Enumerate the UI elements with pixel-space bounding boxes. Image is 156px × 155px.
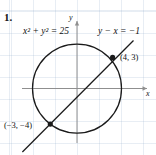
point-label-a: (4, 3) (120, 53, 138, 62)
line-curve (22, 41, 133, 153)
problem-number: 1. (4, 12, 12, 23)
line-equation-label: y − x = −1 (98, 27, 140, 37)
intersection-point-a (110, 55, 115, 60)
axis-label-x: x (146, 90, 150, 98)
y-axis-arrowhead (75, 21, 79, 26)
intersection-point-b (48, 122, 53, 127)
point-label-b: (−3, −4) (4, 121, 32, 130)
math-figure: 1. x² + y² = 25 y − x = −1 y x (4, 3) (−… (0, 0, 156, 155)
axis-label-y: y (69, 14, 73, 22)
coordinate-plot (0, 0, 156, 155)
circle-equation-label: x² + y² = 25 (23, 27, 69, 37)
